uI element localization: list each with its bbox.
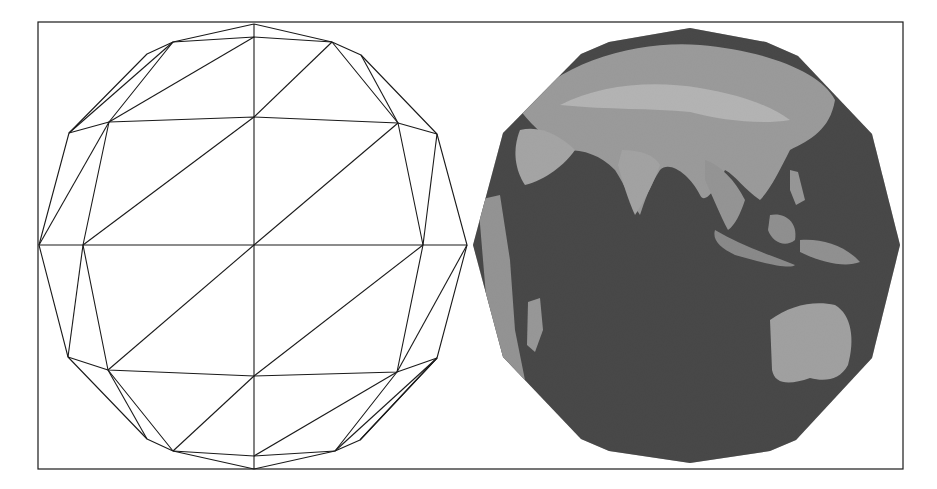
textured-earth-mesh: [470, 24, 905, 469]
wireframe-sphere-mesh: [39, 24, 467, 469]
figure-canvas: [0, 0, 937, 489]
texture-grain: [470, 24, 905, 469]
